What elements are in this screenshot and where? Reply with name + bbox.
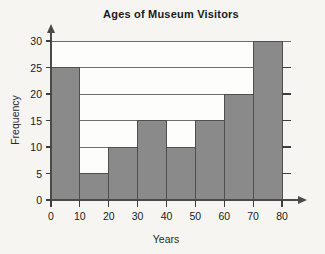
bar-60-70 xyxy=(224,94,253,200)
y-tick-label-15: 15 xyxy=(30,115,42,127)
bar-20-30 xyxy=(109,147,138,200)
y-tick-label-10: 10 xyxy=(30,141,42,153)
y-tick-label-30: 30 xyxy=(30,35,42,47)
bar-30-40 xyxy=(138,121,167,201)
x-tick-labels: 0 10 20 30 40 50 60 70 80 xyxy=(48,210,288,222)
x-tick-label-30: 30 xyxy=(132,210,144,222)
y-tick-label-5: 5 xyxy=(36,168,42,180)
bar-50-60 xyxy=(195,121,224,201)
y-axis-title: Frequency xyxy=(9,94,21,144)
bar-70-80 xyxy=(253,41,282,200)
y-tick-label-0: 0 xyxy=(36,194,42,206)
histogram-figure: Ages of Museum Visitors xyxy=(0,0,325,254)
chart-title: Ages of Museum Visitors xyxy=(103,8,239,20)
x-axis-title: Years xyxy=(153,233,179,245)
x-tick-label-40: 40 xyxy=(161,210,173,222)
x-tick-label-0: 0 xyxy=(48,210,54,222)
x-tick-label-10: 10 xyxy=(74,210,86,222)
x-tick-label-60: 60 xyxy=(218,210,230,222)
x-tick-label-20: 20 xyxy=(103,210,115,222)
x-tick-label-50: 50 xyxy=(190,210,202,222)
x-tick-label-80: 80 xyxy=(276,210,288,222)
bar-0-10 xyxy=(51,68,80,201)
bar-40-50 xyxy=(167,147,196,200)
x-tick-label-70: 70 xyxy=(247,210,259,222)
y-tick-label-25: 25 xyxy=(30,62,42,74)
histogram-canvas: Ages of Museum Visitors xyxy=(0,0,325,254)
bar-10-20 xyxy=(80,174,109,201)
y-tick-label-20: 20 xyxy=(30,88,42,100)
